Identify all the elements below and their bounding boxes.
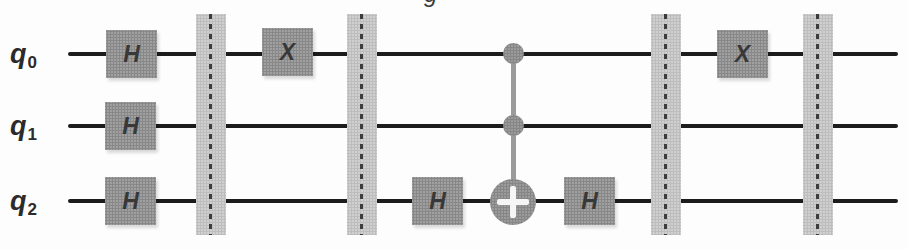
gate-label: X: [735, 41, 750, 68]
gate-x-q0-col2: X: [262, 28, 313, 76]
qubit-label-q2: q2: [10, 185, 62, 217]
qubit-label-q2-base: q: [10, 186, 28, 216]
qubit-label-q1: q1: [10, 110, 62, 142]
qubit-label-q1-base: q: [10, 111, 28, 141]
barrier-2-dashed-line: [360, 14, 363, 235]
gate-h-q2-col5: H: [564, 177, 615, 225]
barrier-3-dashed-line: [664, 14, 667, 235]
gate-h-q0-col1: H: [106, 30, 157, 78]
barrier-4: [803, 14, 833, 235]
caption-fragment: g: [416, 0, 456, 9]
plus-icon: [510, 186, 516, 218]
qubit-wire-q2: [68, 199, 898, 203]
quantum-circuit-diagram: g q0 q1 q2 H H H X H H X: [0, 0, 908, 249]
gate-label: H: [122, 188, 139, 215]
qubit-label-q2-sub: 2: [28, 200, 37, 219]
qubit-label-q0-base: q: [10, 39, 28, 69]
ccx-control-q1: [503, 115, 524, 136]
gate-label: H: [581, 188, 598, 215]
barrier-1-dashed-line: [209, 14, 212, 235]
qubit-wire-q1: [68, 124, 898, 128]
ccx-target: [490, 179, 536, 225]
barrier-1: [196, 14, 226, 235]
gate-label: H: [429, 188, 446, 215]
barrier-3: [651, 14, 681, 235]
ccx-control-q0: [503, 43, 524, 64]
qubit-label-q1-sub: 1: [28, 125, 37, 144]
gate-label: H: [123, 41, 140, 68]
gate-h-q2-col1: H: [105, 177, 156, 225]
caption-fragment-text: g: [424, 0, 437, 8]
gate-label: X: [280, 39, 295, 66]
gate-x-q0-col6: X: [717, 30, 768, 78]
barrier-4-dashed-line: [816, 14, 819, 235]
gate-h-q1-col1: H: [105, 102, 156, 150]
barrier-2: [347, 14, 377, 235]
qubit-wire-q0: [68, 52, 898, 56]
gate-label: H: [122, 113, 139, 140]
gate-h-q2-col3: H: [412, 177, 463, 225]
qubit-label-q0: q0: [10, 38, 62, 70]
qubit-label-q0-sub: 0: [28, 53, 37, 72]
